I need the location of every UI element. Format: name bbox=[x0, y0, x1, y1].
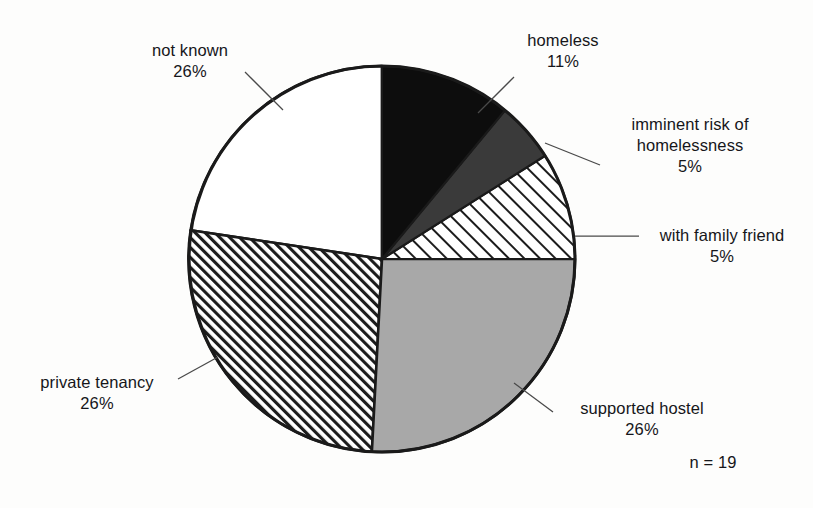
pie-slice-not-known[interactable] bbox=[191, 66, 382, 259]
slice-label-not-known-pct: 26% bbox=[124, 61, 256, 82]
leader-line-private-tenancy bbox=[178, 357, 218, 379]
slice-label-with-family-friend-pct: 5% bbox=[642, 246, 802, 267]
sample-size-note: n = 19 bbox=[668, 452, 758, 473]
slice-label-homeless: homeless 11% bbox=[508, 30, 618, 72]
slice-label-not-known-name: not known bbox=[152, 41, 228, 59]
slice-label-not-known: not known 26% bbox=[124, 40, 256, 82]
pie-slice-supported-hostel[interactable] bbox=[372, 259, 575, 452]
slice-label-private-tenancy-name: private tenancy bbox=[40, 373, 153, 391]
slice-label-imminent-risk-pct: 5% bbox=[604, 156, 776, 177]
pie-slices bbox=[188, 66, 575, 452]
pie-chart-figure: not known 26% homeless 11% imminent risk… bbox=[0, 0, 813, 508]
slice-label-supported-hostel: supported hostel 26% bbox=[557, 398, 727, 440]
slice-label-imminent-risk-line2: homelessness bbox=[604, 135, 776, 156]
slice-label-private-tenancy: private tenancy 26% bbox=[14, 372, 180, 414]
slice-label-imminent-risk-line1: imminent risk of bbox=[631, 115, 748, 133]
slice-label-homeless-name: homeless bbox=[527, 31, 598, 49]
leader-line-imminent-risk bbox=[545, 143, 600, 165]
slice-label-private-tenancy-pct: 26% bbox=[14, 393, 180, 414]
slice-label-supported-hostel-name: supported hostel bbox=[580, 399, 704, 417]
slice-label-with-family-friend-name: with family friend bbox=[660, 226, 785, 244]
pie-slice-private-tenancy[interactable] bbox=[188, 230, 382, 451]
slice-label-supported-hostel-pct: 26% bbox=[557, 419, 727, 440]
slice-label-homeless-pct: 11% bbox=[508, 51, 618, 72]
slice-label-imminent-risk: imminent risk of homelessness 5% bbox=[604, 114, 776, 177]
slice-label-with-family-friend: with family friend 5% bbox=[642, 225, 802, 267]
leader-line-supported-hostel bbox=[514, 383, 553, 412]
